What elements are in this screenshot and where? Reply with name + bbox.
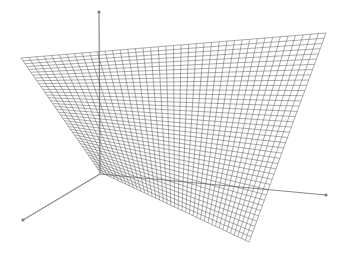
wireframe-mesh [21,33,326,242]
mesh-line-u [249,33,326,242]
x-axis-endpoint [21,218,24,221]
x-axis [23,174,100,220]
mesh-line-u [234,36,295,236]
saddle-surface-plot [0,0,342,258]
z-axis-endpoint [97,10,100,13]
mesh-line-u [238,35,303,237]
mesh-line-u [242,34,311,238]
y-axis-endpoint [324,193,327,196]
mesh-line-u [230,36,288,233]
mesh-line-u [245,34,318,241]
